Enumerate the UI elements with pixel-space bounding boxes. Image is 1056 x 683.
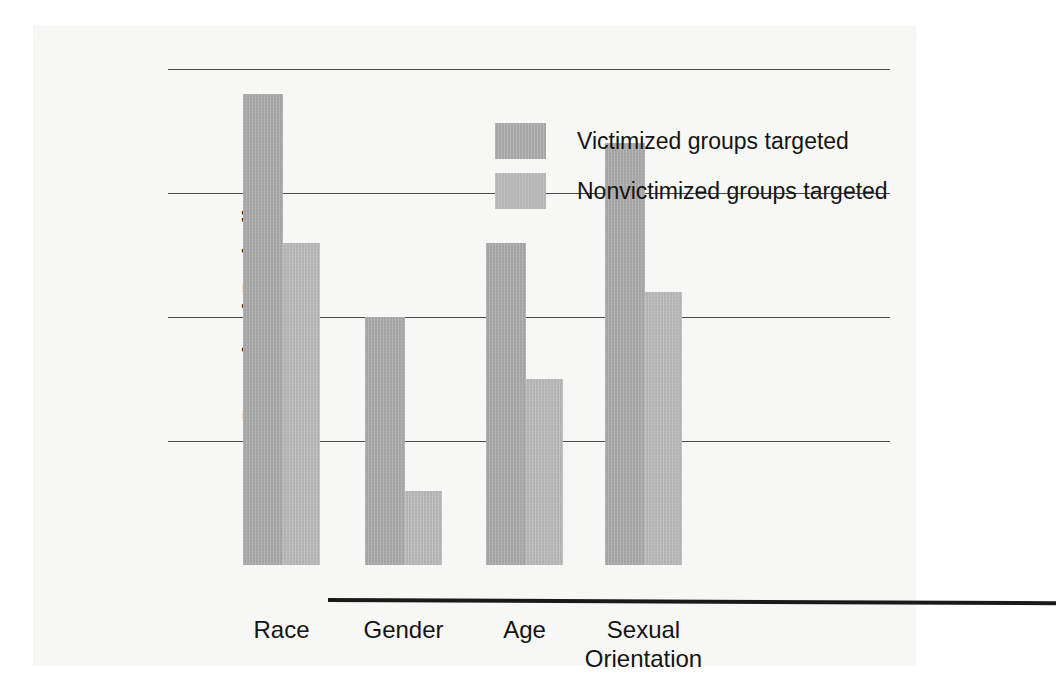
bar-age-series1 [526, 379, 563, 565]
bar-gender-series0 [365, 317, 405, 565]
legend-item: Victimized groups targeted [495, 121, 888, 161]
gridline-7 [168, 69, 890, 70]
legend-swatch-nonvictimized [495, 173, 546, 209]
legend-item: Nonvictimized groups targeted [495, 171, 888, 211]
legend-swatch-victimized [495, 123, 546, 159]
legend-label-victimized: Victimized groups targeted [577, 128, 849, 155]
bar-sexual-orientation-series1 [645, 292, 682, 565]
legend-label-nonvictimized: Nonvictimized groups targeted [577, 178, 888, 205]
x-axis-label-line: Orientation [534, 644, 754, 673]
x-axis-label-line: Sexual [534, 615, 754, 644]
x-axis-label-sexual-orientation: SexualOrientation [534, 615, 754, 674]
bar-age-series0 [486, 243, 526, 565]
bar-gender-series1 [405, 491, 442, 565]
legend: Victimized groups targeted Nonvictimized… [495, 121, 888, 221]
plot-area: 7654 Perceived Prejudice RaceGenderAgeSe… [168, 40, 890, 565]
bar-race-series0 [243, 94, 283, 565]
bar-race-series1 [283, 243, 320, 565]
